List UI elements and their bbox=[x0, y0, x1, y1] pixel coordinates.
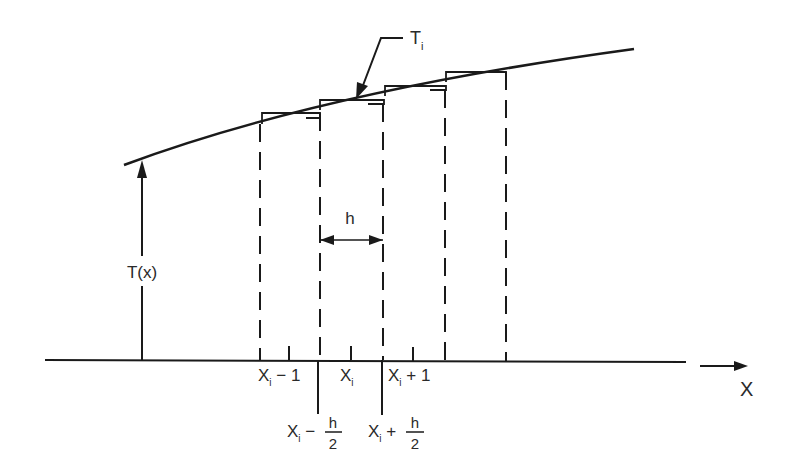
continuous-curve bbox=[124, 49, 634, 165]
ti-leader-line bbox=[362, 38, 403, 88]
x-axis-label: X bbox=[740, 378, 753, 400]
x-axis-line bbox=[45, 360, 686, 362]
spacing-arrowhead-left-icon bbox=[320, 235, 334, 245]
x-axis-arrowhead-icon bbox=[734, 361, 748, 371]
svg-text:2: 2 bbox=[411, 435, 419, 452]
function-label: T(x) bbox=[127, 263, 157, 282]
svg-text:h: h bbox=[411, 414, 419, 431]
svg-text:Xi +: Xi + bbox=[368, 422, 396, 444]
spacing-label: h bbox=[345, 209, 354, 228]
svg-text:h: h bbox=[329, 414, 337, 431]
face-label-right: Xi + h 2 bbox=[368, 414, 424, 452]
svg-text:2: 2 bbox=[329, 435, 337, 452]
step-cell-3 bbox=[385, 86, 446, 96]
cell-boundary-lines bbox=[260, 72, 506, 362]
node-label-ip1: Xi + 1 bbox=[388, 366, 430, 388]
node-label-im1: Xi − 1 bbox=[258, 366, 300, 388]
function-arrowhead-icon bbox=[137, 160, 147, 178]
face-label-left: Xi − h 2 bbox=[287, 414, 342, 452]
node-label-i: Xi bbox=[340, 366, 354, 388]
ti-label: Ti bbox=[410, 28, 423, 52]
diagram-canvas: X T(x) h Ti Xi − 1 Xi Xi + 1 Xi − h bbox=[0, 0, 792, 476]
svg-text:Xi −: Xi − bbox=[287, 422, 315, 444]
spacing-arrowhead-right-icon bbox=[369, 235, 383, 245]
